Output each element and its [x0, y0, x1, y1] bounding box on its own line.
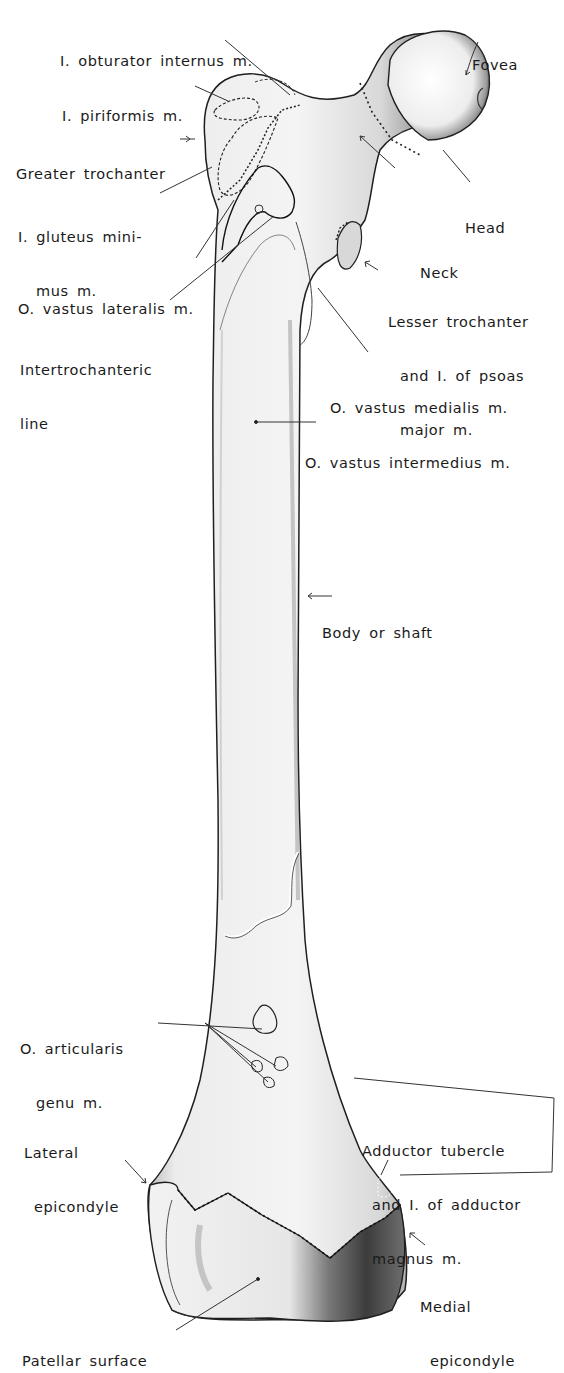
label-adductor-tubercle: Adductor tubercle and I. of adductor mag… [362, 1106, 521, 1286]
label-intertrochanteric-line: Intertrochanteric line [20, 325, 152, 451]
label-medial-epicondyle: Medial epicondyle [420, 1262, 515, 1373]
label-patellar-surface: Patellar surface [22, 1316, 147, 1373]
label-greater-trochanter: Greater trochanter [16, 129, 166, 201]
label-lateral-epicondyle: Lateral epicondyle [24, 1108, 119, 1234]
label-vastus-intermedius: O. vastus intermedius m. [305, 418, 510, 490]
label-body-or-shaft: Body or shaft [322, 588, 433, 660]
label-head: Head [465, 183, 505, 255]
label-fovea: Fovea [472, 20, 518, 92]
